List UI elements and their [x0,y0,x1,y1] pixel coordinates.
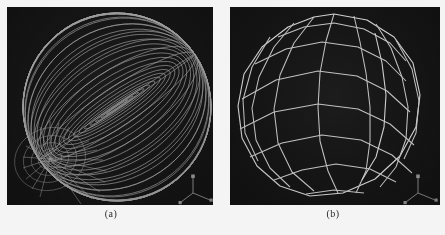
axis-z-label-a [179,201,182,204]
axis-z-label-b [404,201,407,204]
panel-b: (b) [222,0,444,235]
axis-y-label-b [416,175,420,179]
axis-y-label-a [191,175,195,179]
figure-container: (a) [0,0,445,235]
wireframe-sphere-b [230,7,440,205]
viewport-b[interactable] [230,7,440,205]
viewport-a[interactable] [7,7,213,205]
panel-a: (a) [0,0,222,235]
axis-x-label-a [210,199,213,202]
caption-b: (b) [222,207,444,221]
caption-a: (a) [0,207,222,221]
axis-x-label-b [435,199,438,202]
wireframe-sphere-a [7,7,213,205]
